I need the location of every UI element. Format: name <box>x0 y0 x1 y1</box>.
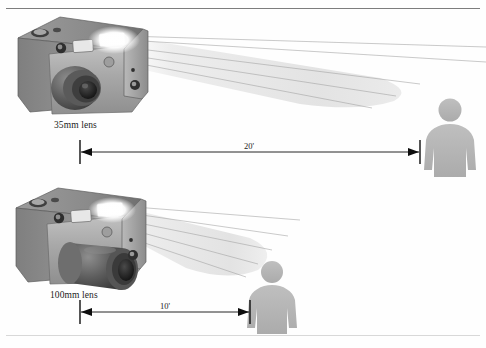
distance-label-20ft: 20' <box>244 141 254 151</box>
camera-led-indicator <box>131 68 135 72</box>
arrow-left-icon <box>81 308 92 316</box>
camera-front-dial <box>102 227 112 237</box>
person-body <box>424 124 476 177</box>
person-silhouette-icon <box>424 99 476 178</box>
camera-shutter-button <box>53 28 61 32</box>
camera-shutter-button <box>51 198 59 202</box>
camera-sensor-inner <box>56 215 61 220</box>
flash-glow-icon <box>88 26 140 54</box>
panel-100mm <box>16 188 300 334</box>
person-head <box>261 261 283 283</box>
camera-35mm <box>18 17 148 114</box>
camera-lens-glass <box>118 259 134 281</box>
person-head <box>439 99 462 122</box>
flash-beam-wide <box>120 36 486 108</box>
flash-range-diagram: 35mm lens 100mm lens 20' 10' <box>0 0 486 348</box>
camera-led-indicator <box>129 238 133 242</box>
camera-100mm <box>16 188 146 290</box>
camera-lens-highlight <box>84 246 116 254</box>
camera-lens-base <box>58 242 82 284</box>
camera-lens-highlight <box>82 84 88 89</box>
arrow-left-icon <box>81 148 92 156</box>
beam-cone <box>122 36 401 107</box>
camera-self-timer-inner <box>132 82 137 87</box>
panel-35mm <box>18 17 486 177</box>
person-silhouette-icon <box>247 261 297 334</box>
distance-label-10ft: 10' <box>160 301 170 311</box>
lens-label-35mm: 35mm lens <box>54 120 97 130</box>
camera-top-dial-inner <box>32 199 45 205</box>
camera-sensor-inner <box>58 45 63 50</box>
flash-glow-icon <box>88 197 136 223</box>
person-body <box>247 285 297 334</box>
camera-lens-glass <box>79 81 97 99</box>
arrow-right-icon <box>408 148 419 156</box>
camera-self-timer-inner <box>130 252 135 257</box>
arrow-right-icon <box>238 308 249 316</box>
lens-label-100mm: 100mm lens <box>50 290 98 300</box>
camera-front-dial <box>104 57 114 67</box>
camera-top-dial-inner <box>34 29 47 35</box>
